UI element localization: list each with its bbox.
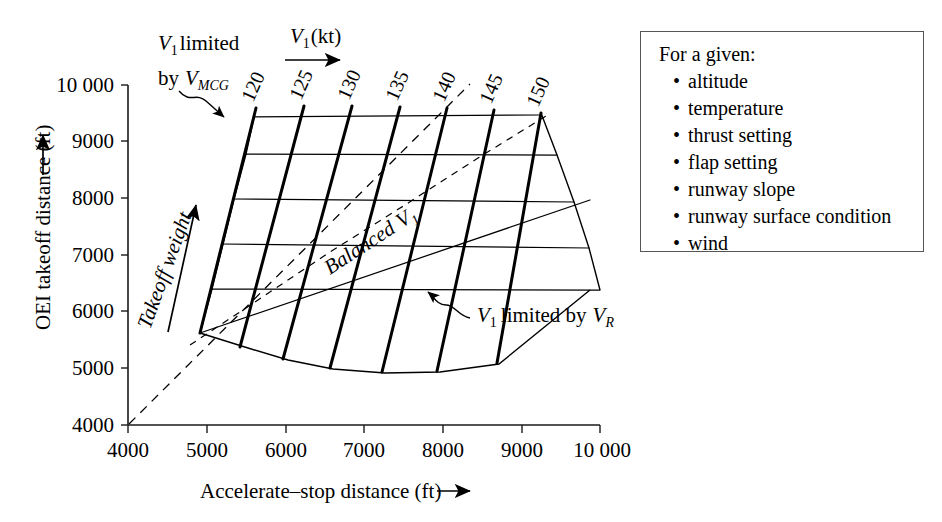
v1-label-135: 135: [381, 67, 413, 103]
legend-item-wind: •wind: [673, 230, 923, 257]
y-tick-label: 10 000: [56, 73, 114, 97]
bullet-icon: •: [673, 176, 680, 203]
v1-label-150: 150: [522, 73, 554, 109]
legend-item-runway-surface-condition: •runway surface condition: [673, 203, 923, 230]
annotation-vmcg: V1limited byVMCG: [158, 31, 240, 117]
y-tick-label: 8000: [72, 186, 114, 210]
legend-item-list: •altitude •temperature •thrust setting •…: [659, 68, 923, 257]
legend-item-altitude: •altitude: [673, 68, 923, 95]
x-tick-label: 4000: [107, 438, 149, 462]
annotation-takeoff-weight: Takeoff weight: [132, 205, 197, 332]
x-axis-title: Accelerate–stop distance (ft): [200, 479, 441, 503]
legend-item-label: flap setting: [688, 151, 777, 173]
bullet-icon: •: [673, 230, 680, 257]
v1-label-125: 125: [285, 66, 317, 102]
x-tick-label: 5000: [186, 438, 228, 462]
legend-title: For a given:: [659, 41, 923, 68]
v1-line-145: [437, 110, 494, 371]
weight-line-5: [211, 289, 600, 290]
v1-label-120: 120: [237, 68, 269, 104]
y-tick-label: 4000: [72, 413, 114, 437]
weight-line-4: [222, 244, 589, 248]
bullet-icon: •: [673, 95, 680, 122]
given-conditions-legend: For a given: •altitude •temperature •thr…: [640, 31, 924, 252]
weight-line-3: [233, 199, 574, 202]
y-tick-label: 7000: [72, 243, 114, 267]
vmcg-leader-arrow-icon: [179, 91, 224, 117]
annotation-vr: V1limited byVR: [428, 292, 614, 330]
bullet-icon: •: [673, 68, 680, 95]
x-tick-label: 7000: [343, 438, 385, 462]
legend-item-label: altitude: [688, 70, 748, 92]
legend-item-label: wind: [688, 232, 728, 254]
legend-item-temperature: •temperature: [673, 95, 923, 122]
y-tick-label: 9000: [72, 129, 114, 153]
x-tick-label: 9000: [501, 438, 543, 462]
x-tick-label: 10 000: [573, 438, 631, 462]
x-tick-label: 8000: [422, 438, 464, 462]
legend-item-runway-slope: •runway slope: [673, 176, 923, 203]
v1-label-130: 130: [333, 66, 365, 102]
legend-item-thrust-setting: •thrust setting: [673, 122, 923, 149]
takeoff-weight-label: Takeoff weight: [132, 207, 197, 331]
vmcg-annotation-line1: V1limited: [158, 31, 240, 58]
v1-label-140: 140: [428, 68, 460, 104]
x-tick-label: 6000: [265, 438, 307, 462]
bullet-icon: •: [673, 149, 680, 176]
v1-line-125: [240, 106, 304, 347]
y-axis-ticks: [121, 85, 128, 425]
legend-item-label: runway surface condition: [688, 205, 891, 227]
vr-annotation: V1limited byVR: [477, 303, 614, 330]
legend-item-flap-setting: •flap setting: [673, 149, 923, 176]
legend-item-label: temperature: [688, 97, 784, 119]
legend-item-label: runway slope: [688, 178, 795, 200]
y-tick-label: 6000: [72, 299, 114, 323]
carpet-v1-labels: 120 125 130 135 140 145 150: [237, 66, 554, 109]
bullet-icon: •: [673, 122, 680, 149]
v1-label-145: 145: [475, 70, 507, 106]
v1-line-120: [200, 108, 256, 333]
x-axis-ticks: [128, 425, 600, 433]
carpet-boundary: [200, 113, 600, 373]
figure-root: 10 000 9000 8000 7000 6000 5000 4000 400…: [0, 0, 942, 522]
bullet-icon: •: [673, 203, 680, 230]
legend-item-label: thrust setting: [688, 124, 792, 146]
v1kt-annotation: V1(kt): [290, 24, 341, 51]
annotation-v1kt: V1(kt): [285, 24, 341, 60]
vmcg-annotation-line2: byVMCG: [158, 66, 229, 93]
y-tick-label: 5000: [72, 356, 114, 380]
